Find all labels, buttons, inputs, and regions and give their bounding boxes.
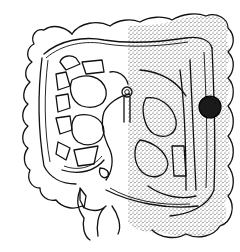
- colon-illustration: [0, 0, 240, 252]
- colon-outline: [23, 0, 234, 237]
- cecum-appendix: [78, 168, 120, 240]
- lesion-marker: [199, 96, 221, 118]
